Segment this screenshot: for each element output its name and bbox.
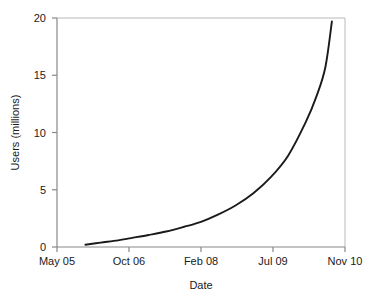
y-tick-label-20: 20 [34,12,46,24]
x-tick-label-nov10: Nov 10 [328,255,363,267]
x-tick-label-jul09: Jul 09 [258,255,287,267]
data-series-users [85,21,332,244]
x-tick-label-feb08: Feb 08 [184,255,218,267]
y-tick-label-10: 10 [34,127,46,139]
y-tick-label-15: 15 [34,69,46,81]
y-tick-label-0: 0 [40,241,46,253]
x-tick-label-oct06: Oct 06 [113,255,145,267]
x-axis-title: Date [189,279,212,291]
line-chart: 20 15 10 5 0 May 05 Oct 06 Feb 08 Jul 09… [0,0,377,295]
x-tick-label-may05: May 05 [39,255,75,267]
plot-frame [57,18,345,247]
y-axis-title: Users (millions) [9,95,21,171]
y-tick-label-5: 5 [40,184,46,196]
chart-container: 20 15 10 5 0 May 05 Oct 06 Feb 08 Jul 09… [0,0,377,295]
